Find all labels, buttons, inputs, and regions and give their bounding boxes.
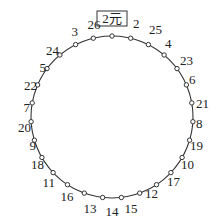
seat-label: 13 (84, 201, 97, 216)
seat-label: 6 (189, 72, 196, 87)
seat-dot (30, 101, 34, 105)
seat-dot (191, 120, 195, 124)
seat-dot (65, 183, 69, 187)
seat-label: 3 (72, 24, 79, 39)
seat-label: 9 (30, 138, 37, 153)
seat-label: 19 (190, 138, 203, 153)
seat-dot (91, 36, 95, 40)
seat-label: 7 (24, 100, 31, 115)
seat-label: 2 (133, 16, 140, 31)
seat-dot (82, 191, 86, 195)
seat-label: 5 (40, 60, 47, 75)
seat-dot (119, 195, 123, 199)
seat-dot (175, 66, 179, 70)
seat-label: 8 (196, 116, 203, 131)
seat-label: 26 (88, 17, 102, 32)
seat-dot (146, 42, 150, 46)
seat-label: 15 (125, 201, 138, 216)
seat-label: 21 (196, 96, 209, 111)
seat-dot (73, 42, 77, 46)
seat-label: 17 (167, 174, 181, 189)
seat-dot (138, 191, 142, 195)
seat-label: 11 (42, 175, 55, 190)
seat-dot (110, 34, 114, 38)
seat-label: 23 (180, 53, 193, 68)
seat-dot (162, 53, 166, 57)
seat-labels: 2元22542362181910171215141316111892072252… (18, 11, 209, 219)
start-seat-label: 2元 (102, 11, 122, 26)
seat-label: 22 (24, 78, 37, 93)
seat-label: 20 (18, 120, 31, 135)
seat-label: 18 (31, 157, 44, 172)
seat-dot (129, 36, 133, 40)
seat-label: 25 (149, 22, 162, 37)
seat-label: 12 (145, 186, 158, 201)
circular-seating-diagram: 2元22542362181910171215141316111892072252… (0, 0, 223, 224)
seat-label: 16 (61, 189, 75, 204)
seat-label: 10 (181, 157, 194, 172)
seat-dot (190, 101, 194, 105)
seat-label: 14 (106, 204, 120, 219)
seat-label: 24 (46, 43, 60, 58)
seat-dot (100, 195, 104, 199)
seat-label: 4 (165, 36, 172, 51)
seat-dot (184, 83, 188, 87)
